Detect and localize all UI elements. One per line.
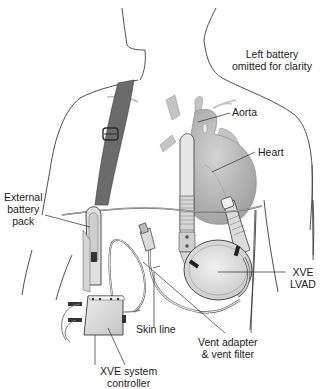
label-aorta: Aorta xyxy=(232,106,257,118)
lvad-pump xyxy=(184,240,252,300)
label-line: controller xyxy=(100,377,157,389)
label-vent-adapter: Vent adapter & vent filter xyxy=(198,336,258,360)
label-system-controller: XVE system controller xyxy=(100,365,157,389)
label-line: battery xyxy=(4,203,43,215)
heart xyxy=(184,109,257,224)
label-line: & vent filter xyxy=(198,348,258,360)
lvad-diagram: Left battery omitted for clarity Aorta H… xyxy=(0,0,328,389)
label-line: Left battery xyxy=(232,48,312,60)
system-controller xyxy=(62,296,140,342)
label-line: LVAD xyxy=(290,278,316,290)
external-battery-pack xyxy=(83,207,101,292)
label-heart: Heart xyxy=(258,146,284,158)
label-line: omitted for clarity xyxy=(232,60,312,72)
label-left-battery: Left battery omitted for clarity xyxy=(232,48,312,72)
label-line: pack xyxy=(4,215,43,227)
label-line: Aorta xyxy=(232,106,257,118)
label-external-battery-pack: External battery pack xyxy=(4,191,43,227)
label-skin-line: Skin line xyxy=(136,323,176,335)
label-line: Vent adapter xyxy=(198,336,258,348)
label-line: XVE xyxy=(290,266,316,278)
label-line: XVE system xyxy=(100,365,157,377)
label-xve-lvad: XVE LVAD xyxy=(290,266,316,290)
label-line: External xyxy=(4,191,43,203)
label-line: Heart xyxy=(258,146,284,158)
label-line: Skin line xyxy=(136,323,176,335)
shoulder-strap xyxy=(95,80,134,205)
